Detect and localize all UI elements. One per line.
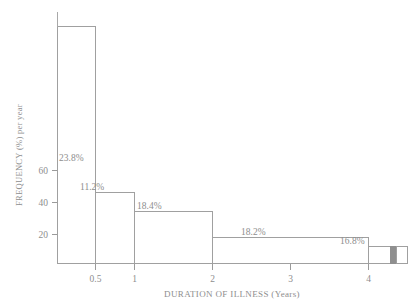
bar-bin-1 [58,27,96,264]
x-axis-ticks [96,264,369,271]
y-axis-ticks [52,171,58,235]
bar-label-1: 23.8% [59,153,84,163]
bar-bin-3 [135,212,213,264]
chart-container: 60 40 20 0.5 1 2 3 4 [0,0,413,305]
histogram-chart: 60 40 20 0.5 1 2 3 4 [0,0,413,305]
bar-bin-5 [369,247,391,264]
x-tick-label-2: 2 [210,274,215,284]
bar-bin-6-marker [391,247,397,264]
y-tick-label-40: 40 [39,198,49,208]
y-axis-title: FREQUENCY (%) per year [14,104,24,206]
bar-label-3: 18.4% [137,201,162,211]
x-axis-title: DURATION OF ILLNESS (Years) [164,289,300,299]
x-tick-label-4: 4 [366,274,371,284]
bar-label-2: 11.2% [80,182,104,192]
bar-bin-2 [96,193,135,264]
bar-group [58,12,408,264]
bar-label-5: 16.8% [340,236,365,246]
x-tick-label-3: 3 [288,274,293,284]
x-tick-label-0-5: 0.5 [90,274,102,284]
x-tick-label-1: 1 [132,274,137,284]
y-tick-label-60: 60 [39,166,49,176]
y-tick-label-20: 20 [39,230,49,240]
bar-bin-6-outline [397,247,408,264]
bar-label-4: 18.2% [241,227,266,237]
